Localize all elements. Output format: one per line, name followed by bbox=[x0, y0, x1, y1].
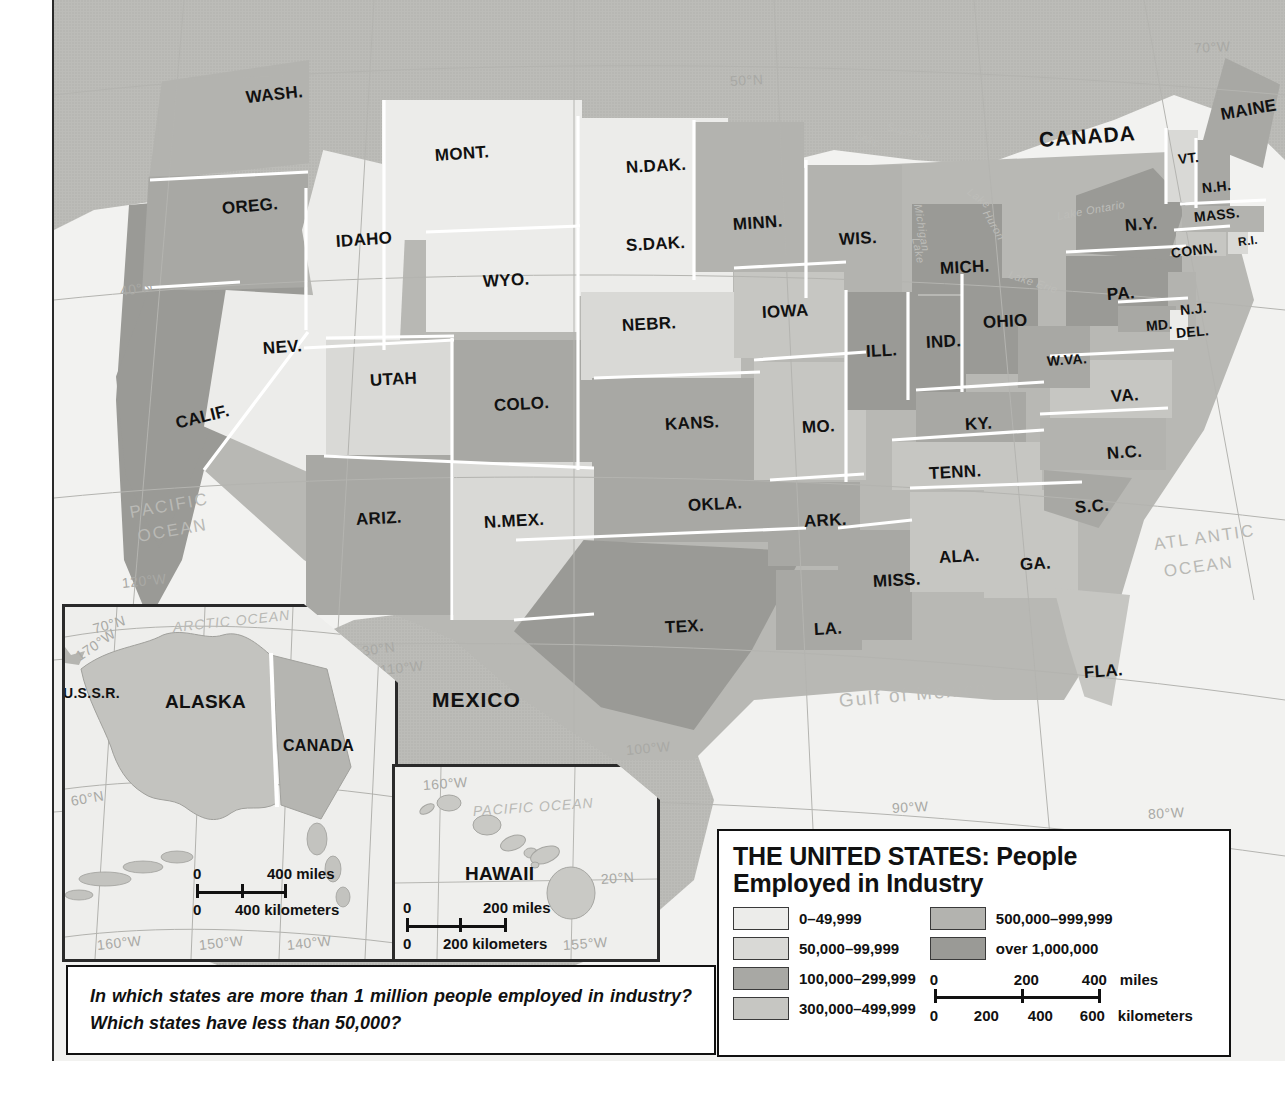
scale-km-unit: kilometers bbox=[1118, 1007, 1193, 1024]
state-label-ga: GA. bbox=[1019, 553, 1051, 575]
legend-title-line1: THE UNITED STATES: People bbox=[733, 842, 1077, 870]
scale-km-tick-0: 0 bbox=[930, 1007, 938, 1024]
state-label-kans: KANS. bbox=[664, 412, 719, 435]
state-label-mo: MO. bbox=[801, 416, 835, 438]
hawaii-scale-km: 200 kilometers bbox=[443, 935, 547, 952]
state-label-ohio: OHIO bbox=[982, 311, 1028, 333]
state-label-tenn: TENN. bbox=[928, 461, 981, 484]
state-label-minn: MINN. bbox=[732, 212, 783, 235]
hawaii-scale-zero-km: 0 bbox=[403, 935, 411, 952]
state-label-nmex: N.MEX. bbox=[483, 510, 544, 533]
state-label-nh: N.H. bbox=[1201, 177, 1232, 196]
state-label-md: MD. bbox=[1145, 316, 1173, 334]
legend-swatch-over-1000000 bbox=[930, 937, 986, 960]
legend-title: THE UNITED STATES: People Employed in In… bbox=[733, 843, 1215, 897]
state-label-va: VA. bbox=[1110, 385, 1139, 407]
state-label-pa: PA. bbox=[1106, 283, 1135, 305]
legend-label: over 1,000,000 bbox=[996, 940, 1099, 957]
state-label-utah: UTAH bbox=[369, 369, 417, 391]
state-label-ky: KY. bbox=[964, 414, 992, 435]
alaska-scale-miles: 400 miles bbox=[267, 865, 335, 882]
state-label-ariz: ARIZ. bbox=[355, 508, 402, 530]
state-label-ark: ARK. bbox=[803, 510, 847, 532]
legend-item[interactable]: 50,000–99,999 bbox=[733, 937, 916, 960]
hawaii-scale-bar: 0200 miles0200 kilometers bbox=[403, 899, 583, 955]
scale-miles-tick-400: 400 bbox=[1082, 971, 1107, 988]
hawaii-graticule-160W-0: 160°W bbox=[422, 774, 468, 793]
state-label-tex: TEX. bbox=[664, 616, 704, 638]
state-label-nev: NEV. bbox=[262, 336, 303, 359]
alaska-canada-label: CANADA bbox=[283, 737, 354, 755]
question-text: In which states are more than 1 million … bbox=[90, 983, 692, 1037]
alaska-label: ALASKA bbox=[165, 691, 246, 713]
legend-label: 0–49,999 bbox=[799, 910, 862, 927]
graticule-label-50N-0: 50°N bbox=[730, 71, 764, 89]
alaska-scale-zero-miles: 0 bbox=[193, 865, 201, 882]
hawaii-scale-zero-miles: 0 bbox=[403, 899, 411, 916]
scale-km-tick-600: 600 bbox=[1080, 1007, 1105, 1024]
legend-item[interactable]: over 1,000,000 bbox=[930, 937, 1170, 960]
legend-column-right: 500,000–999,999 over 1,000,000 0 200 400… bbox=[930, 907, 1170, 1029]
legend-column-left: 0–49,999 50,000–99,999 100,000–299,999 3… bbox=[733, 907, 916, 1029]
state-label-miss: MISS. bbox=[872, 570, 921, 592]
scale-km-tick-400: 400 bbox=[1028, 1007, 1053, 1024]
state-label-wyo: WYO. bbox=[482, 270, 530, 292]
country-label-mexico: MEXICO bbox=[432, 688, 521, 712]
ussr-label: U.S.S.R. bbox=[65, 685, 120, 701]
state-label-nj: N.J. bbox=[1179, 300, 1207, 318]
state-label-wva: W.VA. bbox=[1046, 350, 1087, 369]
scale-miles-tick-200: 200 bbox=[1014, 971, 1039, 988]
alaska-scale-km: 400 kilometers bbox=[235, 901, 339, 918]
legend-item[interactable]: 500,000–999,999 bbox=[930, 907, 1170, 930]
state-label-la: LA. bbox=[813, 619, 842, 640]
state-label-ri: R.I. bbox=[1237, 233, 1258, 249]
legend-item[interactable]: 300,000–499,999 bbox=[733, 997, 916, 1020]
scale-km-tick-200: 200 bbox=[974, 1007, 999, 1024]
alaska-scale-zero-km: 0 bbox=[193, 901, 201, 918]
legend-label: 100,000–299,999 bbox=[799, 970, 916, 987]
hawaii-inset[interactable]: 160°W20°N155°WPACIFIC OCEANHAWAII0200 mi… bbox=[392, 764, 660, 962]
state-label-nc: N.C. bbox=[1106, 442, 1143, 464]
legend-title-line2: Employed in Industry bbox=[733, 869, 983, 897]
state-label-mont: MONT. bbox=[434, 142, 490, 166]
state-label-ind: IND. bbox=[925, 331, 961, 353]
state-label-okla: OKLA. bbox=[687, 493, 742, 516]
legend-label: 300,000–499,999 bbox=[799, 1000, 916, 1017]
hawaii-scale-miles: 200 miles bbox=[483, 899, 551, 916]
state-label-wis: WIS. bbox=[838, 228, 877, 250]
hawaii-label: HAWAII bbox=[465, 863, 534, 885]
state-label-sc: S.C. bbox=[1074, 496, 1110, 518]
legend-swatch-0-49999 bbox=[733, 907, 789, 930]
state-label-idaho: IDAHO bbox=[335, 228, 393, 252]
alaska-scale-bar: 0400 miles0400 kilometers bbox=[193, 865, 365, 921]
state-label-del: DEL. bbox=[1175, 322, 1209, 341]
state-label-sdak: S.DAK. bbox=[625, 233, 685, 256]
state-label-fla: FLA. bbox=[1083, 660, 1123, 683]
state-label-ala: ALA. bbox=[938, 546, 980, 568]
legend-item[interactable]: 100,000–299,999 bbox=[733, 967, 916, 990]
map-legend: THE UNITED STATES: People Employed in In… bbox=[717, 829, 1231, 1057]
legend-label: 500,000–999,999 bbox=[996, 910, 1113, 927]
legend-swatch-500000-999999 bbox=[930, 907, 986, 930]
state-label-mich: MICH. bbox=[939, 256, 990, 279]
legend-item[interactable]: 0–49,999 bbox=[733, 907, 916, 930]
legend-swatch-100000-299999 bbox=[733, 967, 789, 990]
hawaii-graticule-20N-1: 20°N bbox=[600, 869, 634, 887]
state-label-colo: COLO. bbox=[493, 393, 549, 416]
legend-swatch-300000-499999 bbox=[733, 997, 789, 1020]
state-label-iowa: IOWA bbox=[761, 301, 809, 323]
legend-label: 50,000–99,999 bbox=[799, 940, 899, 957]
state-label-ny: N.Y. bbox=[1124, 214, 1158, 236]
scale-miles-tick-0: 0 bbox=[930, 971, 938, 988]
scale-miles-unit: miles bbox=[1120, 971, 1158, 988]
legend-scale-bar: 0 200 400 miles 0 200 400 600 kilometers bbox=[930, 971, 1170, 1029]
graticule-label-90W-6: 90°W bbox=[892, 798, 929, 816]
question-box: In which states are more than 1 million … bbox=[66, 965, 716, 1055]
alaska-inset[interactable]: 70°N170°W60°N160°W150°W140°WARCTIC OCEAN… bbox=[62, 604, 398, 962]
state-label-ill: ILL. bbox=[865, 340, 897, 362]
state-label-ndak: N.DAK. bbox=[625, 155, 686, 178]
graticule-label-80W-7: 80°W bbox=[1148, 804, 1185, 822]
state-label-nebr: NEBR. bbox=[621, 313, 676, 336]
legend-swatch-50000-99999 bbox=[733, 937, 789, 960]
